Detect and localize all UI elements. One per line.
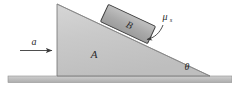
diagram-canvas: A B a θ μ s (0, 0, 232, 93)
friction-label-mu: μ (161, 11, 167, 22)
ground-bar (8, 76, 232, 83)
ground-surface (8, 76, 232, 83)
acceleration-label-a: a (32, 36, 37, 47)
wedge-label-A: A (90, 48, 98, 60)
friction-label-subscript: s (170, 16, 173, 23)
angle-label-theta: θ (185, 61, 190, 72)
physics-diagram-figure: A B a θ μ s (0, 0, 232, 93)
